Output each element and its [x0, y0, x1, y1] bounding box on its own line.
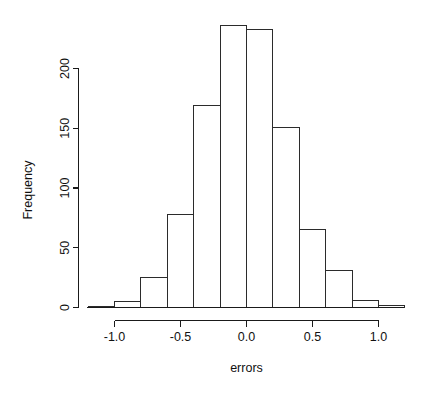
- histogram-plot: Frequency 200 150 100 50 0 -1: [0, 0, 429, 393]
- histogram-bar: [115, 302, 141, 308]
- histogram-bar: [141, 278, 167, 308]
- histogram-bar: [167, 214, 193, 307]
- x-axis: -1.0 -0.5 0.0 0.5 1.0: [104, 321, 388, 345]
- histogram-figure: Frequency 200 150 100 50 0 -1: [0, 0, 429, 393]
- y-tick-label-50: 50: [58, 241, 72, 255]
- histogram-bars: [88, 25, 405, 307]
- histogram-bar: [299, 230, 325, 308]
- y-tick-label-150: 150: [58, 118, 72, 139]
- x-tick-label-1: 1.0: [370, 330, 387, 344]
- y-tick-label-200: 200: [58, 58, 72, 79]
- x-axis-title: errors: [230, 361, 263, 375]
- x-tick-label-neg05: -0.5: [170, 330, 192, 344]
- y-tick-label-100: 100: [58, 178, 72, 199]
- histogram-bar: [352, 300, 378, 307]
- x-tick-label-neg1: -1.0: [104, 330, 126, 344]
- x-tick-label-0: 0.0: [238, 330, 255, 344]
- y-axis-title: Frequency: [21, 160, 35, 220]
- histogram-bar: [194, 106, 220, 308]
- histogram-bar: [220, 25, 246, 307]
- y-tick-label-0: 0: [58, 304, 72, 311]
- histogram-bar: [247, 29, 273, 307]
- histogram-bar: [326, 270, 352, 307]
- x-tick-label-05: 0.5: [304, 330, 321, 344]
- y-axis: 200 150 100 50 0: [58, 58, 78, 311]
- histogram-bar: [273, 127, 299, 307]
